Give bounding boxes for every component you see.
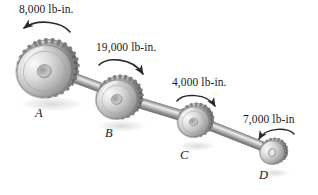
torque-arrow-a	[24, 22, 70, 32]
figure-canvas	[0, 0, 318, 195]
gear-label-b: B	[105, 126, 113, 141]
gear-shaft-torque-figure: 8,000 lb-in. 19,000 lb-in. 4,000 lb-in. …	[0, 0, 318, 195]
torque-label-b: 19,000 lb-in.	[96, 41, 156, 53]
torque-arrow-d	[259, 129, 294, 139]
gear-a	[7, 30, 88, 107]
gear-label-a: A	[35, 106, 43, 121]
gear-b	[90, 69, 149, 125]
gear-c	[172, 98, 219, 143]
gear-label-d: D	[259, 168, 268, 183]
torque-arrow-b	[99, 60, 143, 74]
gear-d	[256, 134, 292, 168]
torque-label-c: 4,000 lb-in.	[172, 76, 227, 88]
gear-label-c: C	[180, 148, 188, 163]
torque-label-d: 7,000 lb-in	[243, 113, 295, 125]
torque-label-a: 8,000 lb-in.	[19, 3, 74, 15]
